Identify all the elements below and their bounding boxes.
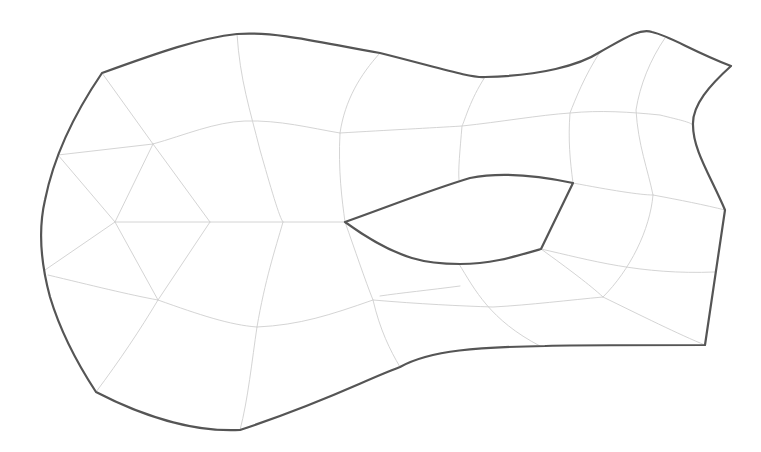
mesh-diagram [0,0,761,452]
